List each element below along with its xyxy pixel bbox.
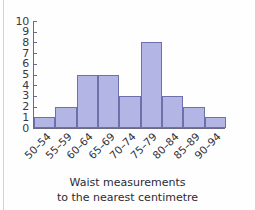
bar xyxy=(34,117,55,128)
bar xyxy=(162,96,183,128)
bar xyxy=(205,117,226,128)
y-tick-label: 9 xyxy=(0,26,29,37)
y-tick-label-text: 3 xyxy=(0,90,29,101)
y-tick-label-text: 6 xyxy=(0,58,29,69)
bar xyxy=(77,75,98,129)
bar xyxy=(119,96,140,128)
y-tick-label-text: 2 xyxy=(0,101,29,112)
bar-series xyxy=(34,21,226,128)
y-tick-label-text: 1 xyxy=(0,112,29,123)
bar xyxy=(98,75,119,129)
y-tick-label-text: 9 xyxy=(0,26,29,37)
axis-caption: Waist measurements to the nearest centim… xyxy=(0,176,255,205)
y-tick-label-text: 7 xyxy=(0,48,29,59)
y-tick-label: 4 xyxy=(0,80,29,91)
y-tick-label-text: 5 xyxy=(0,69,29,80)
y-tick-label: 2 xyxy=(0,101,29,112)
y-tick-label: 5 xyxy=(0,69,29,80)
x-axis-line xyxy=(33,128,225,129)
bar xyxy=(55,107,76,128)
y-tick-label: 6 xyxy=(0,58,29,69)
y-tick-label-text: 10 xyxy=(0,16,29,27)
y-tick-label-text: 8 xyxy=(0,37,29,48)
caption-line-2: to the nearest centimetre xyxy=(0,191,255,206)
y-tick-label: 8 xyxy=(0,37,29,48)
bar xyxy=(141,42,162,128)
y-tick-label: 10 xyxy=(0,16,29,27)
caption-line-1: Waist measurements xyxy=(0,176,255,191)
y-tick-label-text: 0 xyxy=(0,123,29,134)
y-tick-mark xyxy=(33,128,37,129)
y-tick-label: 0 xyxy=(0,123,29,134)
bar xyxy=(183,107,204,128)
y-tick-label: 7 xyxy=(0,48,29,59)
histogram-figure: 012345678910 50–5455–5960–6465–6970–7475… xyxy=(0,0,255,210)
y-tick-label: 1 xyxy=(0,112,29,123)
y-tick-label-text: 4 xyxy=(0,80,29,91)
y-tick-label: 3 xyxy=(0,90,29,101)
